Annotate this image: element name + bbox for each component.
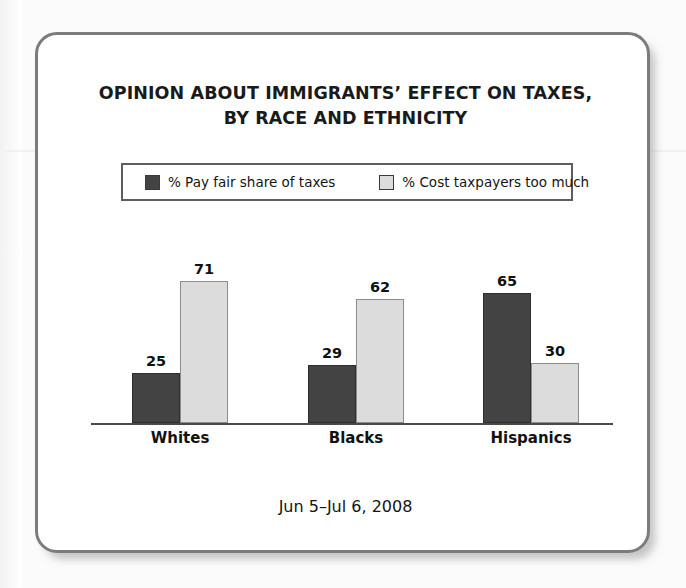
category-label-whites: Whites (110, 429, 250, 447)
legend-swatch-icon-pay-fair-share (145, 175, 160, 190)
bar-blacks-pay-fair-share[interactable] (308, 365, 356, 423)
bar-whites-cost-taxpayers-too-much[interactable] (180, 281, 228, 423)
chart-title-line-1: OPINION ABOUT IMMIGRANTS’ EFFECT ON TAXE… (38, 81, 653, 106)
x-axis-category-labels: Whites Blacks Hispanics (91, 429, 613, 455)
chart-footer-date-range: Jun 5–Jul 6, 2008 (38, 497, 653, 516)
chart-title: OPINION ABOUT IMMIGRANTS’ EFFECT ON TAXE… (38, 81, 653, 132)
legend-label-pay-fair-share: % Pay fair share of taxes (168, 174, 335, 190)
plot-area: 25 71 29 62 65 30 (91, 215, 613, 425)
bar-value-hispanics-pay-fair-share: 65 (477, 273, 537, 289)
category-label-hispanics: Hispanics (461, 429, 601, 447)
chart-title-line-2: BY RACE AND ETHNICITY (38, 106, 653, 131)
legend-item-pay-fair-share[interactable]: % Pay fair share of taxes (145, 165, 335, 199)
bar-blacks-cost-taxpayers-too-much[interactable] (356, 299, 404, 423)
bar-value-whites-cost-taxpayers-too-much: 71 (174, 261, 234, 277)
page-background-seam (0, 0, 22, 588)
category-label-blacks: Blacks (286, 429, 426, 447)
x-axis-line (91, 423, 613, 425)
bar-hispanics-pay-fair-share[interactable] (483, 293, 531, 423)
legend-item-cost-taxpayers-too-much[interactable]: % Cost taxpayers too much (379, 165, 589, 199)
bar-value-hispanics-cost-taxpayers-too-much: 30 (525, 343, 585, 359)
chart-legend: % Pay fair share of taxes % Cost taxpaye… (121, 163, 573, 201)
bar-value-blacks-cost-taxpayers-too-much: 62 (350, 279, 410, 295)
legend-label-cost-taxpayers-too-much: % Cost taxpayers too much (402, 174, 589, 190)
bar-hispanics-cost-taxpayers-too-much[interactable] (531, 363, 579, 423)
bar-whites-pay-fair-share[interactable] (132, 373, 180, 423)
chart-card: OPINION ABOUT IMMIGRANTS’ EFFECT ON TAXE… (35, 32, 650, 553)
bar-value-whites-pay-fair-share: 25 (126, 353, 186, 369)
legend-swatch-icon-cost-taxpayers-too-much (379, 175, 394, 190)
bar-value-blacks-pay-fair-share: 29 (302, 345, 362, 361)
